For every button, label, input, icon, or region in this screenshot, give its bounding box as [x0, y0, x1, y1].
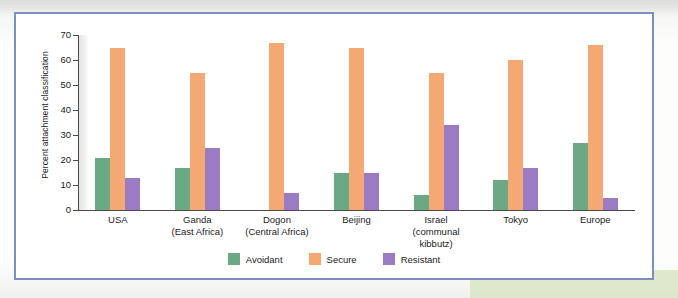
bar-secure — [110, 48, 125, 210]
bar-group — [476, 35, 556, 210]
bar-set — [237, 35, 317, 210]
x-axis-label-main: Beijing — [342, 214, 371, 225]
bar-secure — [508, 60, 523, 210]
bar-set — [317, 35, 397, 210]
y-tick-label: 0 — [66, 204, 71, 215]
y-tick-label: 50 — [60, 79, 71, 90]
x-axis-label: Israel(communal kibbutz) — [396, 214, 476, 250]
bar-secure — [429, 73, 444, 211]
bar-avoidant — [414, 195, 429, 210]
bar-groups — [78, 35, 635, 210]
x-axis-label: Dogon(Central Africa) — [237, 214, 317, 250]
legend-swatch-icon — [309, 253, 321, 265]
bar-set — [158, 35, 238, 210]
figure-frame: Percent attachment classification 70 60 … — [14, 12, 654, 280]
bar-avoidant — [493, 180, 508, 210]
y-axis-title: Percent attachment classification — [40, 30, 50, 200]
x-axis-label-main: Dogon — [263, 214, 291, 225]
bar-avoidant — [175, 168, 190, 211]
x-axis-label: Beijing — [317, 214, 397, 250]
bar-group — [317, 35, 397, 210]
x-axis-label-main: Tokyo — [503, 214, 528, 225]
bar-resistant — [444, 125, 459, 210]
x-axis-label: Europe — [555, 214, 635, 250]
bar-avoidant — [334, 173, 349, 211]
bar-group — [78, 35, 158, 210]
legend-label: Resistant — [401, 254, 441, 265]
bar-secure — [269, 43, 284, 211]
bar-avoidant — [573, 143, 588, 211]
chart-legend: AvoidantSecureResistant — [16, 253, 652, 265]
y-tick-label: 20 — [60, 154, 71, 165]
bar-resistant — [603, 198, 618, 211]
y-tick-label: 70 — [60, 29, 71, 40]
bar-set — [396, 35, 476, 210]
x-axis-label-sub: (communal kibbutz) — [396, 226, 476, 250]
legend-item-resistant[interactable]: Resistant — [383, 253, 441, 265]
x-axis-label-main: USA — [108, 214, 128, 225]
x-axis-label-main: Ganda — [183, 214, 212, 225]
x-axis-line — [78, 210, 635, 211]
bar-resistant — [125, 178, 140, 211]
x-axis-label: Ganda(East Africa) — [158, 214, 238, 250]
legend-item-avoidant[interactable]: Avoidant — [228, 253, 283, 265]
legend-item-secure[interactable]: Secure — [309, 253, 357, 265]
bar-group — [158, 35, 238, 210]
x-axis-label: USA — [78, 214, 158, 250]
bar-secure — [349, 48, 364, 210]
bar-resistant — [364, 173, 379, 211]
x-axis-label: Tokyo — [476, 214, 556, 250]
legend-label: Secure — [327, 254, 357, 265]
legend-label: Avoidant — [246, 254, 283, 265]
x-axis-labels: USAGanda(East Africa)Dogon(Central Afric… — [78, 214, 635, 250]
y-tick-label: 60 — [60, 54, 71, 65]
bar-secure — [190, 73, 205, 211]
bar-avoidant — [95, 158, 110, 211]
bar-group — [555, 35, 635, 210]
bar-set — [78, 35, 158, 210]
bar-resistant — [284, 193, 299, 211]
x-axis-label-sub: (East Africa) — [158, 226, 238, 238]
y-tick-label: 40 — [60, 104, 71, 115]
legend-swatch-icon — [228, 253, 240, 265]
y-tick-label: 30 — [60, 129, 71, 140]
bar-group — [237, 35, 317, 210]
bar-set — [476, 35, 556, 210]
plot-wrapper: Percent attachment classification 70 60 … — [16, 14, 652, 278]
bar-set — [555, 35, 635, 210]
legend-swatch-icon — [383, 253, 395, 265]
bar-secure — [588, 45, 603, 210]
x-axis-label-main: Europe — [580, 214, 611, 225]
y-tick-label: 10 — [60, 179, 71, 190]
x-axis-label-main: Israel — [424, 214, 447, 225]
bar-resistant — [523, 168, 538, 211]
x-axis-label-sub: (Central Africa) — [237, 226, 317, 238]
bar-group — [396, 35, 476, 210]
bar-resistant — [205, 148, 220, 211]
